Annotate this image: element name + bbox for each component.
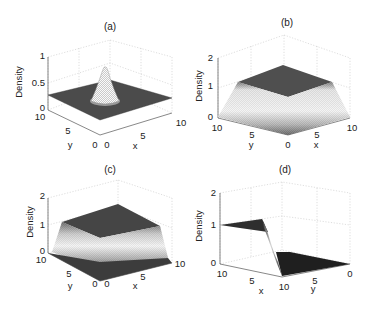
panel-a-xlabel: x bbox=[133, 140, 138, 151]
panel-d: (d) 2 1 0 Density 10 5 x 10 5 y 0 bbox=[193, 164, 353, 296]
panel-d-ylabel: y bbox=[311, 283, 316, 294]
panel-a-ytick-0: 0 bbox=[92, 139, 97, 150]
panel-c-xlabel: x bbox=[133, 280, 138, 291]
panel-c-ytick-0: 0 bbox=[92, 278, 97, 289]
panel-a-ztick-05: 0.5 bbox=[32, 77, 45, 88]
panel-d-xtick-5: 5 bbox=[249, 275, 254, 286]
panel-a-xtick-5: 5 bbox=[140, 130, 145, 141]
panel-c-zlabel: Density bbox=[24, 206, 35, 238]
panel-c-ytick-5: 5 bbox=[66, 268, 71, 279]
panel-d-surface-low bbox=[276, 252, 350, 276]
panel-a-ztick-1: 1 bbox=[40, 50, 45, 61]
panel-d-surface-step bbox=[262, 219, 282, 276]
panel-c-ytick-10: 10 bbox=[36, 254, 47, 265]
panel-d-ztick-0: 0 bbox=[211, 257, 216, 268]
panel-d-zlabel: Density bbox=[193, 210, 204, 242]
panel-c-xtick-0: 0 bbox=[104, 278, 109, 289]
panel-d-title: (d) bbox=[279, 164, 291, 175]
panel-b-ztick-2: 2 bbox=[208, 52, 213, 63]
panel-d-front-tick: 10 bbox=[279, 281, 290, 292]
panel-b-ztick-1: 1 bbox=[208, 80, 213, 91]
panel-a-ytick-10: 10 bbox=[35, 111, 46, 122]
panel-b-ztick-0: 0 bbox=[208, 111, 213, 122]
panel-d-xtick-10: 10 bbox=[217, 268, 228, 279]
panel-a-title: (a) bbox=[104, 21, 116, 32]
panel-b-xtick-0: 0 bbox=[285, 139, 290, 150]
panel-d-ztick-1: 1 bbox=[211, 219, 216, 230]
panel-c-xtick-10: 10 bbox=[175, 258, 186, 269]
panel-b-title: (b) bbox=[281, 17, 293, 28]
panel-b-zlabel: Density bbox=[193, 70, 204, 102]
panel-b-xtick-10: 10 bbox=[347, 122, 358, 133]
panel-c-ylabel: y bbox=[68, 280, 73, 291]
panel-c-xtick-5: 5 bbox=[140, 271, 145, 282]
panel-a-ytick-5: 5 bbox=[65, 125, 70, 136]
panel-d-ytick-0: 0 bbox=[347, 268, 352, 279]
panel-c-title: (c) bbox=[104, 164, 116, 175]
panel-b: (b) 2 1 0 Density 10 5 y 0 5 x 10 bbox=[193, 17, 357, 150]
panel-d-ztick-2: 2 bbox=[211, 187, 216, 198]
panel-a: (a) 1 0.5 0 Density 10 5 0 y 0 5 10 x bbox=[13, 21, 186, 151]
panel-a-ylabel: y bbox=[68, 139, 73, 150]
panel-d-xlabel: x bbox=[259, 285, 264, 296]
figure: (a) 1 0.5 0 Density 10 5 0 y 0 5 10 x (b… bbox=[0, 0, 370, 312]
panel-a-zlabel: Density bbox=[13, 66, 24, 98]
panel-d-surface-high bbox=[220, 219, 268, 232]
panel-b-xlabel: x bbox=[314, 139, 319, 150]
panel-b-ytick-10: 10 bbox=[212, 122, 223, 133]
panel-c-ztick-2: 2 bbox=[40, 190, 45, 201]
panel-b-ylabel: y bbox=[249, 139, 254, 150]
panel-c-ztick-1: 1 bbox=[40, 219, 45, 230]
panel-a-xtick-10: 10 bbox=[176, 117, 187, 128]
panel-c: (c) 2 1 0 Density 10 5 y 0 0 5 x 10 bbox=[24, 164, 185, 291]
panel-a-xtick-0: 0 bbox=[104, 139, 109, 150]
